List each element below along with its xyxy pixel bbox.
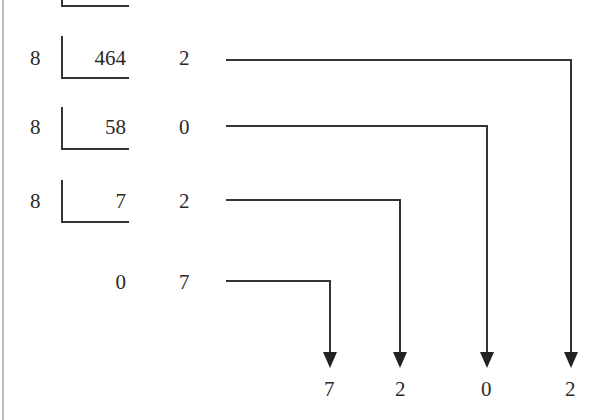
result-digit-3: 0 bbox=[481, 377, 492, 401]
arrow-remainder-3 bbox=[226, 200, 400, 354]
result-digit-4: 2 bbox=[565, 377, 576, 401]
arrowhead-4 bbox=[323, 352, 337, 368]
arrowhead-1 bbox=[564, 352, 578, 368]
result-digit-2: 2 bbox=[395, 377, 406, 401]
arrowhead-2 bbox=[480, 352, 494, 368]
arrowhead-3 bbox=[393, 352, 407, 368]
arrow-remainder-2 bbox=[226, 126, 487, 354]
result-digit-1: 7 bbox=[324, 377, 335, 401]
arrow-remainder-1 bbox=[226, 60, 571, 354]
arrow-connectors bbox=[0, 0, 600, 420]
arrow-remainder-4 bbox=[226, 281, 330, 354]
